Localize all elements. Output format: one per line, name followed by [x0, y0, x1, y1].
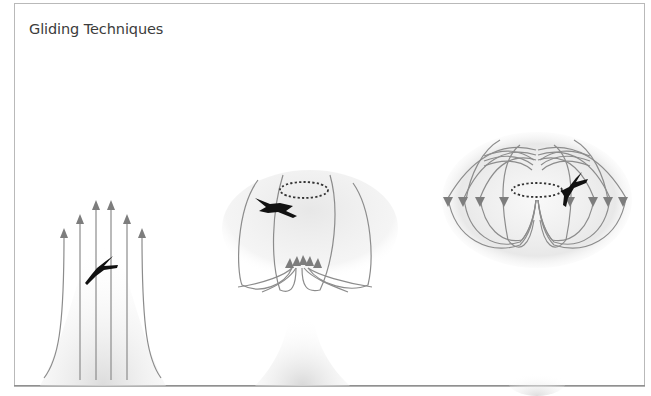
up-arrow-icon — [92, 200, 100, 210]
vortex-ring-panel — [442, 132, 632, 396]
thermal-column-panel — [40, 200, 166, 386]
up-arrow-icon — [76, 214, 84, 224]
hill-haze — [507, 364, 567, 396]
up-arrow-icon — [138, 228, 146, 238]
stem-haze — [255, 300, 350, 386]
up-arrow-icon — [123, 214, 131, 224]
diagram-canvas — [0, 0, 651, 396]
thermal-bubble-panel — [222, 170, 398, 386]
torus-haze — [442, 132, 632, 268]
up-arrow-icon — [107, 200, 115, 210]
up-arrow-icon — [60, 228, 68, 238]
rising-air-haze — [40, 230, 166, 386]
